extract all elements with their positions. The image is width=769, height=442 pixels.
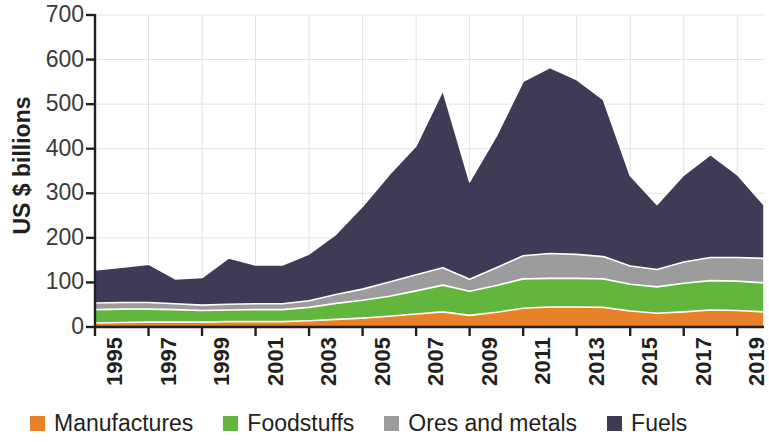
legend-swatch-icon: [30, 416, 45, 431]
legend-swatch-icon: [384, 416, 399, 431]
x-tick-label: 2005: [372, 337, 394, 386]
x-tick-label: 1995: [104, 337, 126, 386]
x-tick-label: 2001: [265, 337, 287, 386]
x-tick-label: 2019: [746, 337, 768, 386]
x-axis-tick-labels: 1995199719992001200320052007200920112013…: [0, 331, 764, 401]
legend-item[interactable]: Manufactures: [30, 412, 193, 435]
legend-label: Manufactures: [54, 412, 193, 435]
legend-label: Ores and metals: [408, 412, 577, 435]
legend-item[interactable]: Fuels: [607, 412, 687, 435]
x-tick-label: 2007: [425, 337, 447, 386]
x-tick-label: 2011: [532, 337, 554, 385]
legend-swatch-icon: [607, 416, 622, 431]
chart-legend: ManufacturesFoodstuffsOres and metalsFue…: [30, 408, 750, 438]
x-tick-label: 1999: [211, 337, 233, 386]
x-tick-label: 2017: [693, 337, 715, 386]
legend-item[interactable]: Ores and metals: [384, 412, 577, 435]
legend-label: Fuels: [631, 412, 687, 435]
x-tick-label: 2003: [318, 337, 340, 386]
legend-swatch-icon: [223, 416, 238, 431]
x-tick-label: 2015: [639, 337, 661, 386]
x-tick-label: 2009: [479, 337, 501, 386]
legend-item[interactable]: Foodstuffs: [223, 412, 354, 435]
legend-label: Foodstuffs: [247, 412, 354, 435]
x-tick-label: 2013: [586, 337, 608, 386]
x-tick-label: 1997: [158, 337, 180, 386]
